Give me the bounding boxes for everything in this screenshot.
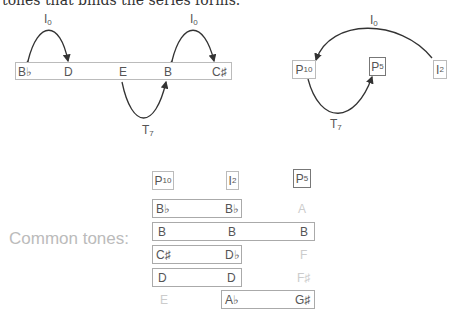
arc-t7-p10-p5: [308, 77, 372, 113]
cell-r4-c3: F♯: [297, 272, 310, 284]
arc-i0-i2-p10: [316, 28, 432, 60]
arc-t7-e-b: [122, 82, 166, 118]
note-e: E: [119, 66, 127, 78]
cell-r4-c2: D: [227, 272, 236, 284]
cell-r3-c3: F: [300, 249, 307, 261]
cell-r2-c1: B: [158, 226, 166, 238]
node-i2: I2: [433, 60, 447, 79]
note-bflat: B♭: [18, 66, 32, 78]
arc-label-t7-right: T7: [330, 118, 342, 132]
cell-r3-c1: C♯: [156, 249, 171, 261]
cell-r5-c2: A♭: [225, 294, 239, 306]
arc-label-i0-top: I0: [370, 14, 378, 28]
arc-i0-bflat-d: [28, 30, 68, 61]
header-i2: I2: [226, 171, 239, 190]
header-p10: P10: [152, 171, 174, 190]
cell-r1-c3: A: [298, 203, 306, 215]
arc-i0-b-csharp: [172, 30, 214, 61]
arc-label-i0-left: I0: [44, 13, 52, 27]
cell-r1-c2: B♭: [225, 203, 239, 215]
common-tones-label: Common tones:: [9, 229, 129, 249]
note-d: D: [64, 66, 73, 78]
node-p10: P10: [292, 60, 316, 79]
cell-r5-c3: G♯: [295, 294, 310, 306]
cell-r2-c2: B: [228, 226, 236, 238]
arc-label-t7: T7: [142, 124, 154, 138]
note-b: B: [164, 66, 172, 78]
cell-r1-c1: B♭: [156, 203, 170, 215]
cell-r3-c2: D♭: [225, 249, 240, 261]
header-p5: P5: [293, 169, 311, 188]
note-csharp: C♯: [212, 66, 227, 78]
cell-r4-c1: D: [158, 272, 167, 284]
arc-label-i0-right: I0: [190, 13, 198, 27]
cell-r2-c3: B: [300, 226, 308, 238]
node-p5: P5: [369, 57, 386, 76]
cell-r5-c1: E: [160, 294, 168, 306]
